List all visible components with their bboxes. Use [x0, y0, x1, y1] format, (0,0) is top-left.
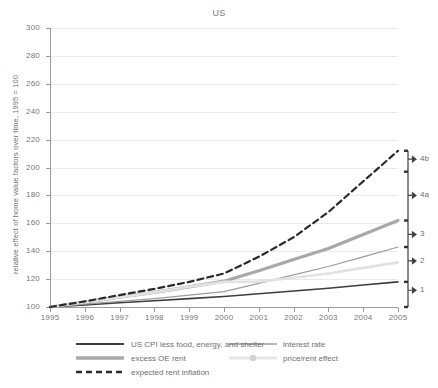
legend-item-us-cpi[interactable]: US CPI less food, energy, and shelter	[131, 340, 264, 349]
annotation-label: 4a	[420, 190, 436, 199]
legend-item-price-rent-effect[interactable]: price/rent effect	[283, 354, 338, 363]
legend-item-interest-rate[interactable]: interest rate	[283, 340, 325, 349]
annotation-bracket	[0, 0, 438, 388]
legend-label: price/rent effect	[283, 354, 338, 363]
legend-item-excess-oe-rent[interactable]: excess OE rent	[131, 354, 186, 363]
annotation-arrow	[408, 157, 416, 162]
chart-legend: US CPI less food, energy, and shelter ex…	[0, 336, 438, 388]
annotation-arrow	[408, 288, 416, 293]
legend-swatch-price-rent-effect-marker	[250, 355, 256, 361]
legend-label: interest rate	[283, 340, 325, 349]
annotation-label: 4b	[420, 154, 436, 163]
annotation-arrow	[408, 258, 416, 263]
chart-container: US relative effect of home value factors…	[0, 0, 438, 388]
annotation-label: 2	[420, 256, 436, 265]
legend-label: expected rent inflation	[131, 368, 209, 377]
legend-label: excess OE rent	[131, 354, 186, 363]
annotation-arrow	[408, 193, 416, 198]
legend-label: US CPI less food, energy, and shelter	[131, 340, 264, 349]
annotation-label: 3	[420, 229, 436, 238]
legend-item-expected-rent-inflation[interactable]: expected rent inflation	[131, 368, 209, 377]
annotation-arrow	[408, 232, 416, 237]
annotation-label: 1	[420, 285, 436, 294]
